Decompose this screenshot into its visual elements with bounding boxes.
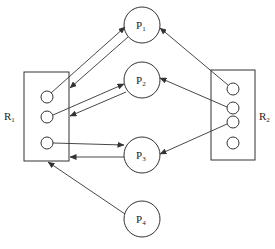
- resource-r1-box: [24, 72, 69, 161]
- r2-instance-1: [227, 83, 239, 95]
- edge-r1-to-p1: [51, 27, 125, 93]
- process-p2: P2: [124, 62, 160, 98]
- r2-instance-3: [227, 116, 239, 128]
- edges: [48, 27, 228, 214]
- edge-p4-to-r1: [48, 162, 125, 214]
- process-p1-label: P1: [136, 19, 146, 33]
- r2-instance-2: [227, 102, 239, 114]
- edge-r1-to-p3: [53, 143, 124, 145]
- edge-r2-to-p2: [160, 78, 227, 107]
- edge-r2-to-p1: [160, 28, 228, 85]
- edge-p1-to-r1: [70, 37, 128, 88]
- process-p1: P1: [124, 7, 160, 43]
- edge-r2-to-p3: [160, 124, 227, 154]
- resource-r1-label: R1: [4, 110, 15, 124]
- process-p3-label: P3: [136, 149, 146, 163]
- resource-r2-label: R2: [259, 110, 270, 124]
- r1-instance-2: [41, 111, 53, 123]
- edge-r1-to-p2: [53, 84, 124, 115]
- process-p4: P4: [124, 201, 160, 237]
- process-p4-label: P4: [136, 213, 146, 227]
- process-p3: P3: [124, 137, 160, 173]
- r1-instance-3: [41, 137, 53, 149]
- r2-instance-4: [227, 137, 239, 149]
- resource-allocation-graph: R1 R2 P1 P2 P3 P4: [0, 0, 275, 249]
- resource-r2: R2: [211, 70, 270, 160]
- process-p2-label: P2: [136, 74, 146, 88]
